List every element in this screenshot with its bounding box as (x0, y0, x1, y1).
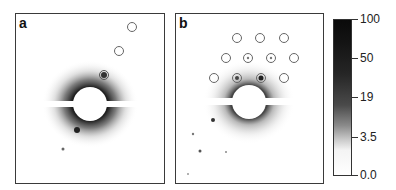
colorbar-tick-19 (352, 97, 358, 98)
panel-label-a: a (19, 15, 27, 31)
circle-markers-a (16, 14, 165, 184)
colorbar-tick-50 (352, 58, 358, 59)
colorbar-label-3-5: 3.5 (360, 131, 377, 143)
panel-b: b (175, 13, 324, 184)
circle-markers-b (176, 14, 324, 184)
colorbar-tick-3-5 (352, 137, 358, 138)
colorbar-label-50: 50 (360, 52, 373, 64)
panel-label-b: b (179, 15, 188, 31)
colorbar-tick-100 (352, 19, 358, 20)
colorbar-label-19: 19 (360, 91, 373, 103)
colorbar-label-0: 0.0 (360, 169, 377, 181)
colorbar-label-100: 100 (360, 13, 380, 25)
colorbar-tick-0 (352, 175, 358, 176)
panel-a: a (15, 13, 165, 184)
colorbar (333, 19, 352, 176)
